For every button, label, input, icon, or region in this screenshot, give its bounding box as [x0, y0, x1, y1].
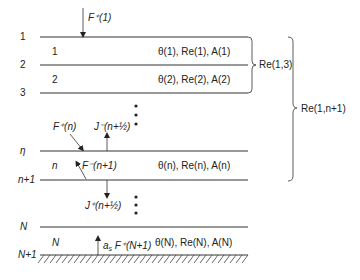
hatch-stroke: [56, 255, 62, 263]
top-incident-label: F⁺(1): [88, 12, 111, 23]
continuation-dot: [134, 104, 137, 107]
layer-props-n: θ(n), Re(n), A(n): [158, 160, 230, 171]
hatch-stroke: [164, 255, 170, 263]
surface-reflected-label: as F⁺(N+1): [103, 240, 151, 252]
hatch-stroke: [92, 255, 98, 263]
level-label-N-plus-1: N+1: [18, 249, 37, 260]
hatch-stroke: [218, 255, 224, 263]
flux-down-n-arrow: [70, 134, 82, 149]
flux-up-from-below-label: F⁻(n+1): [82, 160, 117, 171]
brace-re-1-3: [248, 37, 256, 93]
hatch-stroke: [206, 255, 212, 263]
hatch-stroke: [230, 255, 236, 263]
hatch-stroke: [50, 255, 56, 263]
hatch-stroke: [116, 255, 122, 263]
flux-down-half-label: J⁺(n+½): [84, 200, 121, 211]
hatch-stroke: [62, 255, 68, 263]
hatch-stroke: [140, 255, 146, 263]
hatch-stroke: [200, 255, 206, 263]
hatch-stroke: [182, 255, 188, 263]
surface-reflected-flux: F⁺(N+1): [112, 240, 151, 251]
continuation-dot: [134, 113, 137, 116]
hatch-stroke: [86, 255, 92, 263]
level-label-1: 1: [20, 31, 26, 42]
hatch-stroke: [170, 255, 176, 263]
hatch-stroke: [176, 255, 182, 263]
level-label-eta: η: [20, 145, 26, 156]
layer-index-n: n: [52, 160, 58, 171]
layer-props-N: θ(N), Re(N), A(N): [155, 237, 232, 248]
hatch-stroke: [104, 255, 110, 263]
continuation-dot: [134, 203, 137, 206]
hatch-stroke: [212, 255, 218, 263]
hatch-stroke: [188, 255, 194, 263]
continuation-dot: [134, 195, 137, 198]
layer-index-1: 1: [52, 46, 58, 57]
level-label-n-plus-1: n+1: [18, 174, 35, 185]
hatch-stroke: [128, 255, 134, 263]
layer-props-1: θ(1), Re(1), A(1): [158, 46, 230, 57]
hatch-stroke: [122, 255, 128, 263]
hatch-stroke: [236, 255, 242, 263]
hatch-stroke: [152, 255, 158, 263]
continuation-dot: [134, 211, 137, 214]
flux-up-half-label: J⁻(n+½): [93, 121, 130, 132]
hatch-stroke: [98, 255, 104, 263]
continuation-dot: [134, 122, 137, 125]
hatch-stroke: [158, 255, 164, 263]
hatch-stroke: [146, 255, 152, 263]
layer-index-2: 2: [52, 74, 58, 85]
brace-label-re-1-n-plus-1: Re(1,n+1): [301, 103, 346, 114]
hatch-stroke: [224, 255, 230, 263]
hatch-stroke: [134, 255, 140, 263]
ground-hatching: [38, 255, 248, 263]
brace-label-re-1-3: Re(1,3): [259, 59, 292, 70]
hatch-stroke: [68, 255, 74, 263]
hatch-stroke: [74, 255, 80, 263]
hatch-stroke: [38, 255, 44, 263]
hatch-stroke: [194, 255, 200, 263]
level-label-N: N: [20, 221, 28, 232]
level-label-3: 3: [20, 87, 26, 98]
flux-down-n-label: F⁺(n): [53, 121, 76, 132]
hatch-stroke: [80, 255, 86, 263]
level-label-2: 2: [20, 59, 26, 70]
hatch-stroke: [242, 255, 248, 263]
layer-index-N: N: [52, 237, 60, 248]
layer-props-2: θ(2), Re(2), A(2): [158, 74, 230, 85]
layer-diagram: 1 2 3 η n+1 N N+1 1 2 n N θ(1), Re(1), A…: [0, 0, 360, 280]
hatch-stroke: [110, 255, 116, 263]
hatch-stroke: [44, 255, 50, 263]
